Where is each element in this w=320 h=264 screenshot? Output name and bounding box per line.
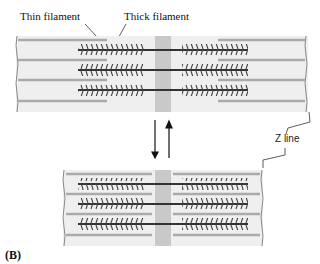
contracted-sarcomere <box>63 170 263 246</box>
sarcomere-diagram <box>0 0 320 264</box>
thin-leader-line <box>85 24 98 38</box>
m-band <box>155 36 171 112</box>
m-band <box>155 170 171 246</box>
contraction-arrows <box>152 120 172 158</box>
arrow-down-icon <box>152 152 158 158</box>
relaxed-sarcomere <box>16 36 308 112</box>
arrow-up-icon <box>166 121 172 128</box>
